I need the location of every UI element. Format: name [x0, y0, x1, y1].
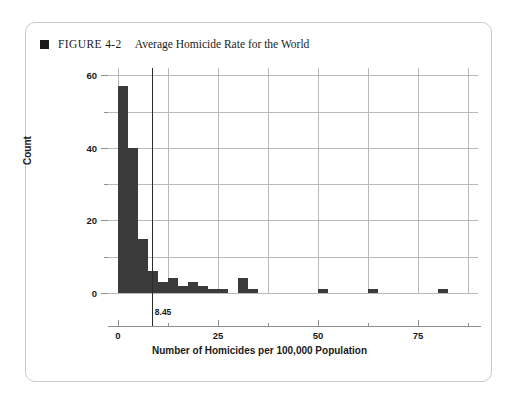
histogram-bar — [248, 289, 258, 293]
gridline-horizontal — [108, 112, 478, 113]
histogram-bar — [168, 278, 178, 293]
x-axis-tick-minor — [168, 323, 169, 326]
gridline-horizontal — [108, 220, 478, 221]
chart-canvas: Number of Homicides per 100,000 Populati… — [26, 23, 493, 383]
histogram-bar — [198, 286, 208, 293]
histogram-bar — [178, 286, 188, 293]
x-axis-tick — [418, 320, 419, 326]
gridline-vertical — [418, 68, 419, 293]
gridline-horizontal — [108, 184, 478, 185]
x-axis-tick-label: 50 — [313, 330, 324, 341]
histogram-bar — [138, 239, 148, 293]
x-axis-tick — [218, 320, 219, 326]
gridline-horizontal — [108, 257, 478, 258]
x-axis-label: Number of Homicides per 100,000 Populati… — [26, 345, 493, 356]
histogram-bar — [368, 289, 378, 293]
x-axis-tick-minor — [268, 323, 269, 326]
x-axis-tick — [318, 320, 319, 326]
histogram-bar — [218, 289, 228, 293]
y-axis-tick — [101, 293, 108, 294]
x-axis-tick — [118, 320, 119, 326]
histogram-bar — [128, 148, 138, 293]
histogram-bar — [158, 282, 168, 293]
reference-line-label: 8.45 — [155, 307, 172, 317]
gridline-horizontal — [108, 148, 478, 149]
gridline-vertical — [468, 68, 469, 293]
y-axis-tick-label: 60 — [86, 70, 97, 81]
gridline-horizontal — [108, 293, 478, 294]
y-axis-tick-label: 20 — [86, 215, 97, 226]
histogram-bar — [188, 282, 198, 293]
y-axis-tick — [101, 148, 108, 149]
figure-card: FIGURE 4-2 Average Homicide Rate for the… — [25, 22, 492, 382]
y-axis-tick-minor — [104, 257, 108, 258]
histogram-bar — [148, 271, 158, 293]
reference-line-average — [152, 68, 153, 326]
gridline-vertical — [318, 68, 319, 293]
y-axis-tick-minor — [104, 184, 108, 185]
histogram-bar — [118, 86, 128, 293]
y-axis-tick — [101, 75, 108, 76]
histogram-bar — [318, 289, 328, 293]
gridline-vertical — [368, 68, 369, 293]
histogram-bar — [238, 278, 248, 293]
histogram-bar — [208, 289, 218, 293]
x-axis-tick-minor — [468, 323, 469, 326]
x-axis-tick-label: 25 — [213, 330, 224, 341]
gridline-vertical — [268, 68, 269, 293]
gridline-horizontal — [108, 75, 478, 76]
y-axis-tick-label: 40 — [86, 142, 97, 153]
x-axis-line — [108, 326, 481, 327]
y-axis-tick-minor — [104, 112, 108, 113]
gridline-vertical — [218, 68, 219, 293]
x-axis-tick-label: 75 — [413, 330, 424, 341]
x-axis-tick-minor — [368, 323, 369, 326]
plot-area — [108, 68, 478, 293]
gridline-vertical — [168, 68, 169, 293]
x-axis-tick-label: 0 — [115, 330, 120, 341]
histogram-bar — [438, 289, 448, 293]
y-axis-tick-label: 0 — [92, 288, 97, 299]
y-axis-label: Count — [22, 136, 33, 165]
y-axis-tick — [101, 220, 108, 221]
